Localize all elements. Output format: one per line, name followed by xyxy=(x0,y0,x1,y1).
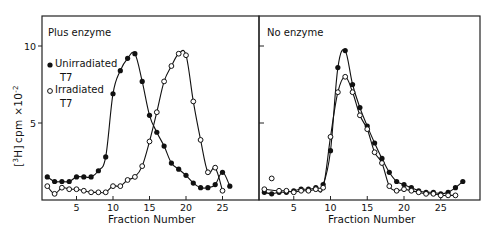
left-panel-frame xyxy=(42,16,259,200)
open-circle-data-point-icon xyxy=(446,193,451,198)
filled-circle-data-point-icon xyxy=(460,179,465,184)
x-tick-label: 10 xyxy=(107,202,119,213)
open-circle-data-point-icon xyxy=(213,165,218,170)
open-circle-data-point-icon xyxy=(198,138,203,143)
legend-item-2-label: Irradiated xyxy=(55,84,104,95)
filled-circle-data-point-icon xyxy=(335,65,340,70)
open-circle-data-point-icon xyxy=(220,188,225,193)
right-panel-axes: 510152025 xyxy=(259,46,447,213)
filled-circle-data-point-icon xyxy=(394,179,399,184)
open-circle-data-point-icon xyxy=(67,187,72,192)
right-panel-plot xyxy=(262,48,466,198)
open-circle-data-point-icon xyxy=(424,191,429,196)
right-panel-frame xyxy=(259,16,480,200)
open-circle-data-point-icon xyxy=(453,193,458,198)
filled-circle-data-point-icon xyxy=(67,179,72,184)
open-circle-data-point-icon xyxy=(118,184,123,189)
filled-circle-data-point-icon xyxy=(343,48,348,53)
left-panel-plot xyxy=(45,50,233,196)
filled-circle-data-point-icon xyxy=(154,130,159,135)
x-tick-label: 5 xyxy=(291,202,297,213)
filled-circle-data-point-icon xyxy=(372,140,377,145)
y-axis-label: [3H]cpm ×10-2 xyxy=(12,85,24,167)
open-circle-data-point-icon xyxy=(387,184,392,189)
open-circle-data-point-icon xyxy=(206,170,211,175)
filled-circle-data-point-icon xyxy=(125,56,130,61)
legend-item-1-sublabel: T7 xyxy=(60,72,72,83)
y-axis-label-unit: cpm ×10 xyxy=(12,93,24,143)
open-circle-data-point-icon xyxy=(60,185,65,190)
open-circle-data-point-icon xyxy=(409,188,414,193)
filled-circle-data-point-icon xyxy=(205,185,210,190)
open-circle-data-point-icon xyxy=(438,193,443,198)
filled-circle-data-point-icon xyxy=(45,174,50,179)
open-circle-data-point-icon xyxy=(147,139,152,144)
x-tick-label: 25 xyxy=(216,202,228,213)
open-circle-data-point-icon xyxy=(169,64,174,69)
y-tick-label: 10 xyxy=(24,41,36,52)
filled-circle-data-point-icon xyxy=(227,184,232,189)
open-circle-data-point-icon xyxy=(277,188,282,193)
open-circle-data-point-icon xyxy=(74,187,79,192)
filled-circle-data-point-icon xyxy=(269,191,274,196)
y-axis-label-element: H] xyxy=(12,145,24,158)
open-circle-data-point-icon xyxy=(313,187,318,192)
legend-item-2-sublabel: T7 xyxy=(60,98,72,109)
open-circle-data-point-icon xyxy=(191,99,196,104)
open-circle-data-point-icon xyxy=(291,190,296,195)
legend-filled-circle-icon xyxy=(47,62,52,67)
series-curve-irradiated xyxy=(47,50,222,193)
open-circle-data-point-icon xyxy=(96,190,101,195)
open-circle-data-point-icon xyxy=(365,127,370,132)
open-circle-data-point-icon xyxy=(81,188,86,193)
series-curve-irradiated xyxy=(264,77,455,196)
open-circle-data-point-icon xyxy=(89,190,94,195)
filled-circle-data-point-icon xyxy=(89,174,94,179)
open-circle-data-point-icon xyxy=(335,90,340,95)
x-tick-label: 20 xyxy=(398,202,410,213)
filled-circle-data-point-icon xyxy=(220,170,225,175)
filled-circle-data-point-icon xyxy=(176,167,181,172)
left-x-axis-label: Fraction Number xyxy=(108,213,195,225)
x-tick-label: 5 xyxy=(73,202,79,213)
open-circle-data-point-icon xyxy=(394,188,399,193)
open-circle-data-point-icon xyxy=(184,53,189,58)
left-panel-title: Plus enzyme xyxy=(48,27,111,38)
open-circle-data-point-icon xyxy=(416,190,421,195)
open-circle-data-point-icon xyxy=(111,184,116,189)
filled-circle-data-point-icon xyxy=(118,68,123,73)
filled-circle-data-point-icon xyxy=(140,79,145,84)
open-circle-data-point-icon xyxy=(380,161,385,166)
filled-circle-data-point-icon xyxy=(169,160,174,165)
open-circle-data-point-icon xyxy=(284,188,289,193)
open-circle-data-point-icon xyxy=(299,188,304,193)
open-circle-data-point-icon xyxy=(431,191,436,196)
open-circle-data-point-icon xyxy=(350,90,355,95)
filled-circle-data-point-icon xyxy=(110,91,115,96)
filled-circle-data-point-icon xyxy=(96,168,101,173)
filled-circle-data-point-icon xyxy=(59,179,64,184)
open-circle-data-point-icon xyxy=(358,113,363,118)
filled-circle-data-point-icon xyxy=(191,180,196,185)
right-panel-title: No enzyme xyxy=(267,27,323,38)
open-circle-data-point-icon xyxy=(45,184,50,189)
open-circle-data-point-icon xyxy=(162,79,167,84)
x-tick-label: 25 xyxy=(435,202,447,213)
open-circle-data-point-icon xyxy=(133,175,138,180)
open-circle-data-point-icon xyxy=(321,185,326,190)
open-circle-data-point-icon xyxy=(154,110,159,115)
open-circle-data-point-icon xyxy=(140,164,145,169)
filled-circle-data-point-icon xyxy=(74,174,79,179)
open-circle-data-point-icon xyxy=(52,191,57,196)
open-circle-data-point-icon xyxy=(306,188,311,193)
filled-circle-data-point-icon xyxy=(162,144,167,149)
filled-circle-data-point-icon xyxy=(198,185,203,190)
open-circle-data-point-icon xyxy=(262,187,267,192)
open-circle-data-point-icon xyxy=(402,187,407,192)
open-circle-data-point-icon xyxy=(343,74,348,79)
open-circle-data-point-icon xyxy=(103,190,108,195)
filled-circle-data-point-icon xyxy=(132,51,137,56)
filled-circle-data-point-icon xyxy=(453,185,458,190)
x-tick-label: 20 xyxy=(180,202,192,213)
filled-circle-data-point-icon xyxy=(183,173,188,178)
